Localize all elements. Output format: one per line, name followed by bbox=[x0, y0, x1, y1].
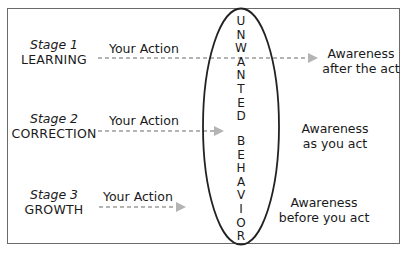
stage-1-action-label: Your Action bbox=[109, 41, 179, 56]
stage-1-awareness-line1: Awareness bbox=[318, 46, 404, 61]
stage-1-number: Stage 1 bbox=[12, 37, 96, 52]
stage-2-awareness: Awareness as you act bbox=[294, 121, 376, 151]
stage-1-awareness-line2: after the act bbox=[318, 61, 404, 76]
letter: R bbox=[233, 230, 249, 244]
letter: N bbox=[233, 69, 249, 83]
letter: I bbox=[233, 203, 249, 217]
letter: V bbox=[233, 189, 249, 203]
stage-2-number: Stage 2 bbox=[8, 111, 100, 126]
stage-3-awareness-line1: Awareness bbox=[276, 195, 372, 210]
letter: H bbox=[233, 162, 249, 176]
stage-2-awareness-line1: Awareness bbox=[294, 121, 376, 136]
stage-3-name: GROWTH bbox=[12, 202, 96, 217]
stage-2-awareness-line2: as you act bbox=[294, 136, 376, 151]
letter: E bbox=[233, 97, 249, 111]
stage-1-name: LEARNING bbox=[12, 52, 96, 67]
letter: T bbox=[233, 83, 249, 97]
letter: E bbox=[233, 149, 249, 163]
stage-2-action-label: Your Action bbox=[109, 113, 179, 128]
unwanted-label: U N W A N T E D bbox=[233, 15, 249, 124]
letter: U bbox=[233, 15, 249, 29]
letter: N bbox=[233, 29, 249, 43]
letter: A bbox=[233, 56, 249, 70]
stage-1-awareness: Awareness after the act bbox=[318, 46, 404, 76]
letter: B bbox=[233, 135, 249, 149]
stage-3-awareness: Awareness before you act bbox=[276, 195, 372, 225]
letter: O bbox=[233, 217, 249, 231]
stage-3-awareness-line2: before you act bbox=[276, 210, 372, 225]
behavior-label: B E H A V I O R bbox=[233, 135, 249, 244]
stage-1-label: Stage 1 LEARNING bbox=[12, 37, 96, 67]
stage-3-action-label: Your Action bbox=[103, 189, 173, 204]
stage-2-name: CORRECTION bbox=[8, 126, 100, 141]
stage-3-label: Stage 3 GROWTH bbox=[12, 187, 96, 217]
stage-3-number: Stage 3 bbox=[12, 187, 96, 202]
letter: D bbox=[233, 110, 249, 124]
stage-2-label: Stage 2 CORRECTION bbox=[8, 111, 100, 141]
letter: W bbox=[233, 42, 249, 56]
letter: A bbox=[233, 176, 249, 190]
